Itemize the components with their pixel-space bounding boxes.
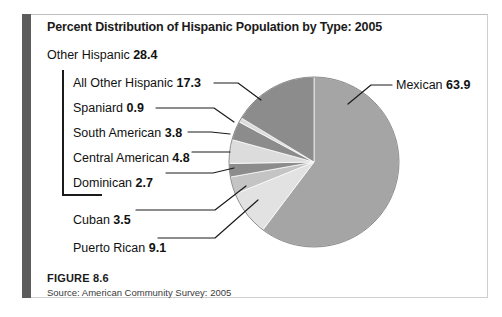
label-spaniard: Spaniard 0.9 bbox=[73, 101, 144, 115]
leader-line-dominican bbox=[166, 168, 234, 173]
label-dominican-name: Dominican bbox=[73, 176, 132, 190]
label-other-hispanic: Other Hispanic 28.4 bbox=[47, 48, 158, 62]
label-central-american-value: 4.8 bbox=[172, 151, 189, 165]
other-hispanic-bracket-foot bbox=[62, 194, 102, 196]
label-cuban-value: 3.5 bbox=[113, 213, 130, 227]
label-spaniard-value: 0.9 bbox=[127, 101, 144, 115]
leader-line-spaniard bbox=[156, 108, 234, 122]
figure-root: Percent Distribution of Hispanic Populat… bbox=[0, 0, 502, 317]
figure-source: Source: American Community Survey: 2005 bbox=[47, 287, 231, 298]
label-puerto-rican-name: Puerto Rican bbox=[73, 241, 145, 255]
label-cuban: Cuban 3.5 bbox=[73, 213, 131, 227]
label-mexican: Mexican 63.9 bbox=[396, 78, 470, 92]
other-hispanic-bracket-vertical bbox=[62, 70, 64, 196]
label-south-american: South American 3.8 bbox=[73, 126, 182, 140]
label-central-american-name: Central American bbox=[73, 151, 169, 165]
label-puerto-rican: Puerto Rican 9.1 bbox=[73, 241, 166, 255]
label-mexican-name: Mexican bbox=[396, 78, 443, 92]
label-other-hispanic-name: Other Hispanic bbox=[47, 48, 130, 62]
label-dominican-value: 2.7 bbox=[136, 176, 153, 190]
label-dominican: Dominican 2.7 bbox=[73, 176, 153, 190]
label-all-other-hispanic-name: All Other Hispanic bbox=[73, 76, 173, 90]
label-spaniard-name: Spaniard bbox=[73, 101, 123, 115]
label-all-other-hispanic: All Other Hispanic 17.3 bbox=[73, 76, 201, 90]
label-all-other-hispanic-value: 17.3 bbox=[177, 76, 201, 90]
figure-number: FIGURE 8.6 bbox=[47, 272, 109, 284]
label-cuban-name: Cuban bbox=[73, 213, 110, 227]
leader-line-all-other-hispanic bbox=[214, 83, 261, 100]
label-other-hispanic-value: 28.4 bbox=[133, 48, 157, 62]
label-mexican-value: 63.9 bbox=[446, 78, 470, 92]
label-central-american: Central American 4.8 bbox=[73, 151, 190, 165]
leader-line-south-american bbox=[188, 132, 230, 134]
leader-line-mexican bbox=[348, 85, 392, 104]
label-south-american-value: 3.8 bbox=[165, 126, 182, 140]
label-puerto-rican-value: 9.1 bbox=[149, 241, 166, 255]
label-south-american-name: South American bbox=[73, 126, 161, 140]
leader-line-puerto-rican bbox=[158, 200, 258, 238]
